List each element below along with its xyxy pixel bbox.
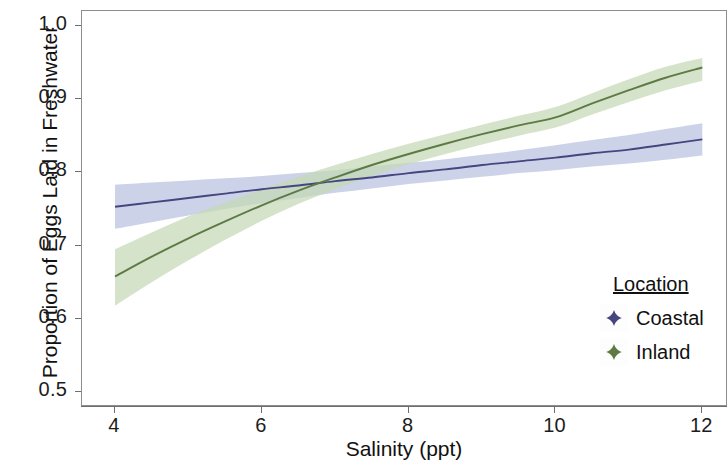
y-tick-label: 0.8 [39,158,67,181]
chart-figure: Proportion of Eggs Laid in Freshwater 0.… [0,0,727,471]
x-tick-mark [701,407,702,413]
x-tick-mark [114,407,115,413]
x-tick-label: 12 [671,414,727,437]
y-axis-title: Proportion of Eggs Laid in Freshwater [38,2,62,402]
legend-label: Coastal [636,307,704,330]
legend-label: Inland [636,341,691,364]
x-tick-label: 8 [378,414,438,437]
legend: Location CoastalInland [600,274,727,369]
x-tick-label: 6 [231,414,291,437]
y-tick-label: 1.0 [39,12,67,35]
x-axis-title: Salinity (ppt) [81,437,727,461]
x-tick-mark [261,407,262,413]
y-tick-label: 0.5 [39,378,67,401]
legend-key-swatch-icon [600,338,628,366]
legend-entries: CoastalInland [600,301,727,369]
x-tick-label: 10 [524,414,584,437]
legend-item-inland[interactable]: Inland [600,335,727,369]
y-tick-label: 0.9 [39,85,67,108]
legend-title: Location [613,274,727,295]
legend-item-coastal[interactable]: Coastal [600,301,727,335]
x-tick-mark [408,407,409,413]
legend-key-swatch-icon [600,304,628,332]
x-axis-line [81,406,727,407]
y-tick-label: 0.7 [39,232,67,255]
x-tick-label: 4 [84,414,144,437]
x-tick-mark [554,407,555,413]
y-tick-label: 0.6 [39,305,67,328]
